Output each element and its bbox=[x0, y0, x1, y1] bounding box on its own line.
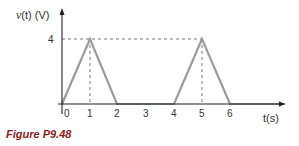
x-tick-4: 4 bbox=[171, 108, 177, 119]
waveform-v-of-t bbox=[62, 39, 280, 104]
figure-caption: Figure P9.48 bbox=[6, 128, 71, 140]
x-tick-6: 6 bbox=[227, 108, 233, 119]
x-tick-2: 2 bbox=[114, 108, 120, 119]
triangle-pulse-chart: v(t) (V) 4 0 1 2 3 4 5 6 t(s) bbox=[0, 0, 299, 146]
x-axis-label: t(s) bbox=[263, 112, 279, 124]
x-tick-5: 5 bbox=[199, 108, 205, 119]
y-tick-4: 4 bbox=[48, 34, 54, 45]
x-tick-1: 1 bbox=[87, 108, 93, 119]
x-axis-arrow-icon bbox=[279, 102, 286, 107]
x-tick-0: 0 bbox=[64, 108, 70, 119]
y-axis-arrow-icon bbox=[60, 8, 65, 15]
x-tick-3: 3 bbox=[143, 108, 149, 119]
y-axis-label: v(t) (V) bbox=[16, 8, 49, 22]
